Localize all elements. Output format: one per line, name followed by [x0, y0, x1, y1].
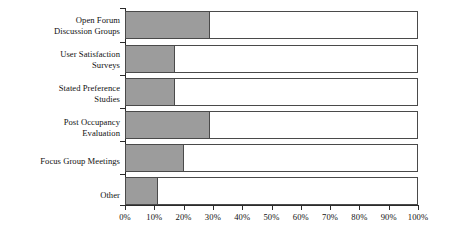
category-label-other: Other: [2, 190, 120, 201]
value-axis-tick: [242, 205, 243, 210]
bar-row: [125, 111, 418, 139]
category-label-user-satisfaction-surveys: User Satisfaction Surveys: [2, 49, 120, 70]
value-axis-tick: [330, 205, 331, 210]
bar-row: [125, 45, 418, 73]
category-axis-tick: [120, 174, 125, 175]
value-axis-tick-label: 100%: [396, 212, 440, 223]
category-label-line: Other: [2, 190, 120, 201]
bar-fill-other: [126, 178, 158, 204]
category-label-line: Studies: [2, 94, 120, 105]
value-axis-tick: [184, 205, 185, 210]
value-axis-tick: [389, 205, 390, 210]
value-axis-tick: [301, 205, 302, 210]
value-axis-tick: [213, 205, 214, 210]
category-axis-tick: [120, 42, 125, 43]
horizontal-bar-chart: Open Forum Discussion Groups User Satisf…: [0, 0, 449, 239]
category-label-line: Stated Preference: [2, 83, 120, 94]
bar-fill-user-satisfaction-surveys: [126, 46, 175, 72]
category-label-open-forum-discussion-groups: Open Forum Discussion Groups: [2, 15, 120, 36]
category-label-line: Post Occupancy: [2, 117, 120, 128]
value-axis-tick: [272, 205, 273, 210]
category-axis-tick: [120, 141, 125, 142]
category-label-focus-group-meetings: Focus Group Meetings: [2, 156, 120, 167]
category-label-line: User Satisfaction: [2, 49, 120, 60]
value-axis-tick: [125, 205, 126, 210]
category-label-post-occupancy-evaluation: Post Occupancy Evaluation: [2, 117, 120, 138]
category-axis-tick: [120, 8, 125, 9]
bar-row: [125, 78, 418, 106]
value-axis-tick: [154, 205, 155, 210]
bar-fill-stated-preference-studies: [126, 79, 175, 105]
category-label-line: Discussion Groups: [2, 26, 120, 37]
category-label-line: Surveys: [2, 60, 120, 71]
category-label-stated-preference-studies: Stated Preference Studies: [2, 83, 120, 104]
bar-fill-focus-group-meetings: [126, 145, 184, 171]
category-label-line: Focus Group Meetings: [2, 156, 120, 167]
value-axis-tick: [418, 205, 419, 210]
bar-row: [125, 11, 418, 39]
bar-row: [125, 144, 418, 172]
category-axis-tick: [120, 75, 125, 76]
bar-row: [125, 177, 418, 205]
plot-area: 0%10%20%30%40%50%60%70%80%90%100%: [125, 9, 418, 205]
bar-fill-post-occupancy-evaluation: [126, 112, 210, 138]
bar-fill-open-forum-discussion-groups: [126, 12, 210, 38]
category-label-line: Evaluation: [2, 128, 120, 139]
category-axis-tick: [120, 108, 125, 109]
value-axis-tick: [359, 205, 360, 210]
category-label-line: Open Forum: [2, 15, 120, 26]
